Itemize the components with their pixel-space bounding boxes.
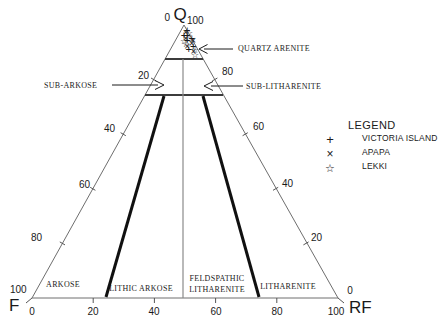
x-marker-icon: × <box>326 147 333 161</box>
field-label-sub-arkose: SUB-ARKOSE <box>44 81 97 90</box>
f-vertex-label: F <box>9 296 19 315</box>
data-point-marker: ☆ <box>180 36 188 46</box>
rf-vertex-label: RF <box>349 298 372 317</box>
field-label-feldspathic-litharenite-line1: FELDSPATHIC <box>189 274 244 283</box>
legend-label-victoria-island: VICTORIA ISLAND <box>362 133 438 143</box>
left-tick-20: 20 <box>138 70 150 81</box>
f-upper-scale-value: 100 <box>10 284 27 295</box>
quartz-arenite-arrow <box>199 45 233 54</box>
sub-litharenite-arrow <box>204 82 243 91</box>
feldspathic-litharenite-boundary-line <box>203 96 259 297</box>
left-tick-60: 60 <box>79 179 91 190</box>
data-point-marker: ☆ <box>191 50 199 60</box>
right-tick-40: 40 <box>282 178 294 189</box>
bottom-tick-80: 80 <box>271 306 283 317</box>
field-label-sub-litharenite: SUB-LITHARENITE <box>246 82 321 91</box>
q-left-scale-value: 0 <box>164 12 170 23</box>
bottom-tick-0: 0 <box>29 306 35 317</box>
bottom-tick-60: 60 <box>210 306 222 317</box>
field-label-litharenite: LITHARENITE <box>260 282 316 291</box>
legend: LEGEND + VICTORIA ISLAND × APAPA ☆ LEKKI <box>325 119 438 174</box>
bottom-tick-100: 100 <box>328 306 345 317</box>
classification-boundaries <box>106 59 259 298</box>
triangle-outline <box>32 25 338 298</box>
tick-marks <box>26 78 344 303</box>
plus-marker-icon: + <box>326 132 334 147</box>
left-tick-40: 40 <box>104 123 116 134</box>
field-label-arkose: ARKOSE <box>46 280 80 289</box>
legend-title: LEGEND <box>348 119 396 131</box>
ternary-diagram-figure: 20 40 60 80 80 60 40 20 0 20 40 60 80 10… <box>0 0 442 332</box>
left-tick-80: 80 <box>31 232 43 243</box>
star-marker-icon: ☆ <box>325 162 335 174</box>
sub-arkose-arrow <box>112 81 164 90</box>
field-label-lithic-arkose: LITHIC ARKOSE <box>109 284 173 293</box>
right-tick-80: 80 <box>222 66 234 77</box>
legend-label-lekki: LEKKI <box>362 161 387 171</box>
qfr-ternary-plot: 20 40 60 80 80 60 40 20 0 20 40 60 80 10… <box>0 0 442 332</box>
right-tick-60: 60 <box>253 121 265 132</box>
q-vertex-label: Q <box>173 5 186 24</box>
bottom-tick-20: 20 <box>87 306 99 317</box>
data-point-cluster: +++++++××××××☆☆☆☆☆☆ <box>180 24 199 61</box>
right-tick-20: 20 <box>311 232 323 243</box>
field-label-quartz-arenite: QUARTZ ARENITE <box>238 44 310 53</box>
rf-upper-scale-value: 0 <box>347 285 353 296</box>
bottom-tick-40: 40 <box>148 306 160 317</box>
legend-label-apapa: APAPA <box>362 147 390 157</box>
field-label-feldspathic-litharenite-line2: LITHARENITE <box>189 285 245 294</box>
